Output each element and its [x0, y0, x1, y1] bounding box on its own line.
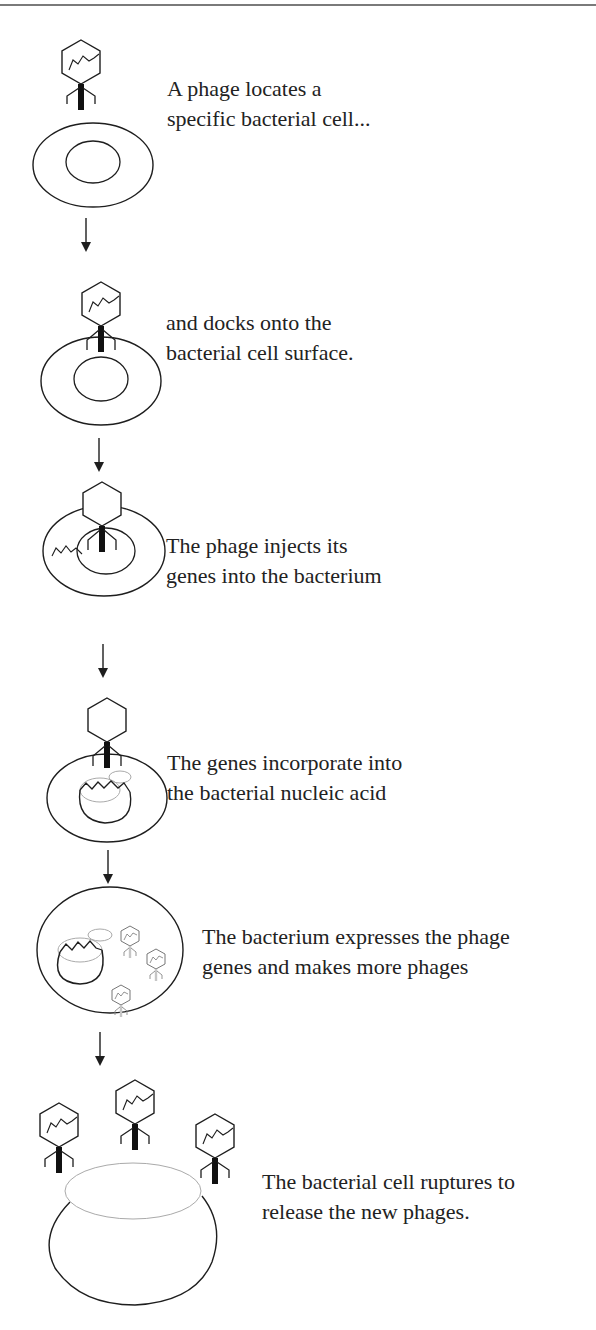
step-5-line-1: The bacterium expresses the phage: [202, 922, 510, 952]
step-1-caption: A phage locates a specific bacterial cel…: [167, 74, 370, 134]
down-arrow-icon: [81, 218, 91, 252]
step-1-line-2: specific bacterial cell...: [167, 104, 370, 134]
step-3-line-1: The phage injects its: [166, 531, 382, 561]
step-5-line-2: genes and makes more phages: [202, 952, 510, 982]
step-6-caption: The bacterial cell ruptures to release t…: [262, 1167, 515, 1227]
step-1-phage-approaching-cell-icon: [33, 40, 153, 207]
step-6-line-1: The bacterial cell ruptures to: [262, 1167, 515, 1197]
step-2-caption: and docks onto the bacterial cell surfac…: [166, 308, 353, 368]
down-arrow-icon: [103, 850, 113, 884]
step-4-line-1: The genes incorporate into: [167, 748, 402, 778]
step-4-line-2: the bacterial nucleic acid: [167, 778, 402, 808]
step-5-caption: The bacterium expresses the phage genes …: [202, 922, 510, 982]
step-3-caption: The phage injects its genes into the bac…: [166, 531, 382, 591]
step-4-genes-incorporating-icon: [47, 698, 167, 842]
step-1-line-1: A phage locates a: [167, 74, 370, 104]
step-6-line-2: release the new phages.: [262, 1197, 515, 1227]
step-2-line-2: bacterial cell surface.: [166, 338, 353, 368]
down-arrow-icon: [94, 438, 104, 472]
step-4-caption: The genes incorporate into the bacterial…: [167, 748, 402, 808]
phage-lifecycle-diagram: [0, 0, 596, 1330]
step-5-cell-producing-phages-icon: [37, 887, 183, 1017]
step-2-line-1: and docks onto the: [166, 308, 353, 338]
step-3-phage-injecting-genes-icon: [43, 482, 165, 596]
down-arrow-icon: [98, 644, 108, 678]
down-arrow-icon: [95, 1032, 105, 1066]
step-2-phage-docked-on-cell-icon: [41, 282, 161, 425]
step-3-line-2: genes into the bacterium: [166, 561, 382, 591]
step-6-cell-rupturing-icon: [40, 1080, 234, 1305]
